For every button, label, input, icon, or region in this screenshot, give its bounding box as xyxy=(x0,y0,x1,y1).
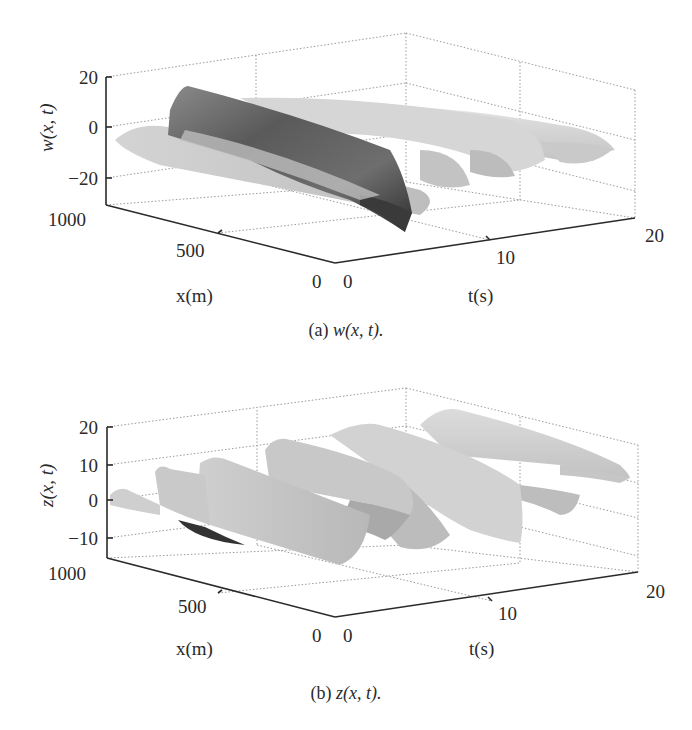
x-tick: 1000 xyxy=(48,210,86,229)
caption-b-math: z(x, t). xyxy=(336,683,381,703)
x-tick: 0 xyxy=(312,626,322,645)
z-tick: 20 xyxy=(60,68,98,87)
z-tick: 20 xyxy=(60,418,98,437)
t-tick: 20 xyxy=(645,226,664,245)
z-tick: 10 xyxy=(60,456,98,475)
caption-a: (a) w(x, t). xyxy=(0,320,692,341)
caption-a-prefix: (a) xyxy=(309,320,329,340)
caption-a-math: w(x, t). xyxy=(333,320,383,340)
t-tick: 0 xyxy=(343,272,353,291)
x-axis-label: x(m) xyxy=(176,286,213,305)
x-tick: 0 xyxy=(312,272,322,291)
z-axis-label: w(x, t) xyxy=(36,103,58,152)
x-axis-label: x(m) xyxy=(176,639,213,658)
z-tick: −20 xyxy=(50,169,98,188)
surface-plot-b xyxy=(0,365,692,730)
x-tick: 500 xyxy=(178,597,207,616)
caption-b-prefix: (b) xyxy=(311,683,332,703)
x-tick: 1000 xyxy=(48,564,86,583)
surface-plot-a xyxy=(0,0,692,365)
surface-b xyxy=(110,409,630,565)
t-axis-label: t(s) xyxy=(468,286,493,305)
t-tick: 20 xyxy=(646,582,665,601)
t-axis-label: t(s) xyxy=(469,639,494,658)
t-tick: 0 xyxy=(343,626,353,645)
x-tick: 500 xyxy=(176,241,205,260)
t-tick: 10 xyxy=(496,248,515,267)
t-tick: 10 xyxy=(498,604,517,623)
panel-b: 20 10 0 −10 1000 500 0 0 10 20 z(x, t) x… xyxy=(0,365,692,730)
panel-a: 20 0 −20 1000 500 0 0 10 20 w(x, t) x(m)… xyxy=(0,0,692,365)
surface-a xyxy=(115,86,615,232)
caption-b: (b) z(x, t). xyxy=(0,683,692,704)
z-tick: 0 xyxy=(60,491,98,510)
z-axis-label: z(x, t) xyxy=(36,464,58,507)
z-tick: −10 xyxy=(50,529,98,548)
z-tick: 0 xyxy=(60,118,98,137)
